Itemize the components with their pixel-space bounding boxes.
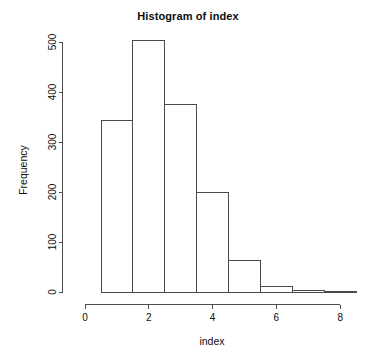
x-axis-tick-label: 2 [146,312,152,323]
y-axis-tick-label: 200 [47,183,58,200]
histogram-bar [165,105,197,293]
y-axis-tick-label: 400 [47,83,58,100]
plot-canvas: 0100200300400500 02468 index Frequency [0,0,376,359]
x-axis-tick-label: 0 [82,312,88,323]
bars-group [101,40,356,292]
y-axis-tick-label: 0 [47,289,58,295]
histogram-bar [292,291,324,293]
histogram-bar [229,260,261,292]
y-axis-tick-label: 100 [47,233,58,250]
y-axis: 0100200300400500 [47,33,62,295]
y-axis-tick-label: 300 [47,133,58,150]
x-axis-tick-label: 8 [337,312,343,323]
histogram-bar [260,287,292,293]
histogram-bar [101,120,133,292]
histogram-bar [197,192,229,292]
y-axis-title: Frequency [17,144,29,194]
x-axis-title: index [199,335,225,347]
histogram-plot: Histogram of index 0100200300400500 0246… [0,0,376,359]
histogram-bar [133,40,165,292]
x-axis-tick-label: 6 [274,312,280,323]
y-axis-tick-label: 500 [47,33,58,50]
histogram-bar [324,291,356,292]
x-axis: 02468 [82,305,343,323]
x-axis-tick-label: 4 [210,312,216,323]
